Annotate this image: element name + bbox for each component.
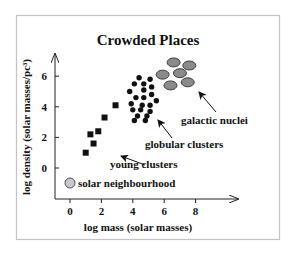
dot-marker xyxy=(147,77,152,82)
y-tick-label: 2 xyxy=(42,131,48,143)
dot-marker xyxy=(127,89,132,94)
chart-frame xyxy=(17,16,280,240)
dot-marker xyxy=(132,118,137,123)
square-marker xyxy=(102,115,108,121)
square-marker xyxy=(113,102,119,108)
dot-marker xyxy=(141,95,146,100)
square-marker xyxy=(87,131,93,137)
ellipse-marker xyxy=(156,70,169,79)
dot-marker xyxy=(147,109,152,114)
x-tick-label: 4 xyxy=(130,205,136,217)
dot-marker xyxy=(138,107,143,112)
square-marker xyxy=(95,128,101,134)
dot-marker xyxy=(147,103,152,108)
ellipse-marker xyxy=(173,69,186,78)
y-axis-label: log density (solar masses/pc³) xyxy=(20,59,33,195)
x-tick-label: 8 xyxy=(193,205,199,217)
dot-marker xyxy=(143,118,148,123)
dot-marker xyxy=(144,113,149,118)
dot-marker xyxy=(135,113,140,118)
dot-marker xyxy=(129,101,134,106)
x-tick-label: 2 xyxy=(99,205,105,217)
dot-marker xyxy=(149,92,154,97)
dot-marker xyxy=(141,81,146,86)
ellipse-marker xyxy=(183,61,196,70)
chart-title: Crowded Places xyxy=(97,32,200,48)
dot-marker xyxy=(136,75,141,80)
ellipse-marker xyxy=(164,81,177,90)
dot-marker xyxy=(149,84,154,89)
square-marker xyxy=(83,150,89,156)
dot-marker xyxy=(141,87,146,92)
square-marker xyxy=(91,141,97,147)
dot-marker xyxy=(154,98,159,103)
dot-marker xyxy=(133,95,138,100)
x-axis-label: log mass (solar masses) xyxy=(84,221,193,234)
dot-marker xyxy=(132,81,137,86)
dot-marker xyxy=(140,103,145,108)
circle-marker xyxy=(65,178,75,188)
annotation-globular-clusters: globular clusters xyxy=(145,138,224,150)
y-tick-label: 0 xyxy=(42,162,48,174)
ellipse-marker xyxy=(167,58,180,67)
x-tick-label: 6 xyxy=(161,205,167,217)
dot-marker xyxy=(130,107,135,112)
y-tick-label: 6 xyxy=(42,70,48,82)
chart: Crowded Places 0246 02468 log mass (sola… xyxy=(0,0,294,254)
x-tick-label: 0 xyxy=(67,205,73,217)
annotation-galactic-nuclei: galactic nuclei xyxy=(181,114,248,126)
annotation-young-clusters: young clusters xyxy=(110,158,178,170)
annotation-solar-neighbourhood: solar neighbourhood xyxy=(78,177,175,189)
ellipse-marker xyxy=(181,78,194,87)
solar-neighbourhood-series xyxy=(65,178,75,188)
y-tick-label: 4 xyxy=(42,101,48,113)
